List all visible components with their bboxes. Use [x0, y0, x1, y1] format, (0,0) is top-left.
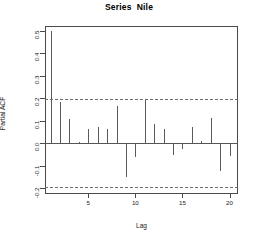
x-axis-label: Lag — [45, 222, 238, 229]
x-axis: 5101520 — [45, 194, 238, 208]
stem-lag-5 — [88, 129, 89, 143]
stem-lag-13 — [164, 129, 165, 143]
stem-lag-14 — [173, 143, 174, 155]
y-tick-label: 0.5 — [34, 30, 41, 39]
x-tick — [88, 194, 89, 198]
y-tick-label: 0.3 — [34, 75, 41, 84]
stem-lag-8 — [117, 106, 118, 143]
y-tick-label: -0.1 — [34, 165, 41, 176]
y-tick-label: 0.0 — [34, 143, 41, 152]
stem-lag-19 — [220, 143, 221, 171]
x-tick — [182, 194, 183, 198]
x-tick-label: 20 — [220, 199, 240, 206]
plot-area — [45, 26, 238, 194]
y-axis-label-wrapper: Partial ACF — [14, 26, 24, 194]
stem-lag-4 — [79, 142, 80, 143]
x-tick-label: 5 — [78, 199, 98, 206]
zero-baseline — [45, 143, 238, 144]
stem-lag-12 — [154, 124, 155, 143]
confidence-band-lower — [45, 187, 238, 188]
stem-lag-15 — [182, 143, 183, 149]
x-tick — [230, 194, 231, 198]
stem-lag-2 — [60, 102, 61, 143]
stem-lag-7 — [107, 129, 108, 143]
y-tick-label: 0.1 — [34, 120, 41, 129]
y-tick-label: 0.4 — [34, 53, 41, 62]
stem-lag-10 — [135, 143, 136, 157]
stem-lag-20 — [230, 143, 231, 156]
y-tick-label: 0.2 — [34, 98, 41, 107]
confidence-band-upper — [45, 99, 238, 100]
stem-lag-1 — [51, 31, 52, 143]
y-axis-label: Partial ACF — [0, 30, 6, 198]
x-tick — [135, 194, 136, 198]
stem-lag-3 — [69, 119, 70, 143]
stem-lag-18 — [211, 118, 212, 143]
stem-lag-16 — [192, 127, 193, 143]
stem-lag-11 — [145, 100, 146, 143]
stem-lag-17 — [201, 141, 202, 143]
y-tick-label: -0.2 — [34, 188, 41, 199]
stem-lag-6 — [98, 127, 99, 143]
x-tick-label: 10 — [125, 199, 145, 206]
stem-lag-9 — [126, 143, 127, 177]
chart-title: Series Nile — [0, 2, 258, 12]
x-tick-label: 15 — [172, 199, 192, 206]
pacf-chart: Series Nile Partial ACF -0.2-0.10.00.10.… — [0, 0, 258, 243]
